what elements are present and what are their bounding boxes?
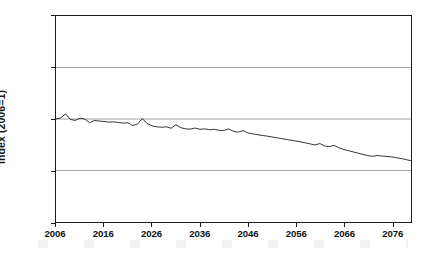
y-tick-mark [51,171,55,172]
plot-area [55,15,412,223]
chart-figure: Index (2006=1) 0.500.751.001.251.5020062… [0,0,427,254]
y-tick-mark [51,15,55,16]
x-tick-mark [103,223,104,227]
x-tick-label: 2076 [370,228,416,239]
gridlines-group [56,68,411,171]
x-tick-label: 2006 [32,228,78,239]
y-tick-mark [51,67,55,68]
x-tick-label: 2046 [225,228,271,239]
x-tick-mark [248,223,249,227]
x-tick-label: 2036 [177,228,223,239]
x-tick-mark [344,223,345,227]
y-axis-title-text: Index (2006=1) [0,90,7,164]
data-line [56,114,411,161]
series-line [56,16,411,222]
x-tick-label: 2016 [80,228,126,239]
y-tick-mark [51,119,55,120]
y-axis-title: Index (2006=1) [0,0,22,254]
scan-artifact [38,240,408,248]
x-tick-mark [393,223,394,227]
x-tick-label: 2066 [321,228,367,239]
x-tick-mark [151,223,152,227]
x-tick-mark [200,223,201,227]
x-tick-label: 2026 [128,228,174,239]
x-tick-mark [55,223,56,227]
x-tick-label: 2056 [273,228,319,239]
x-tick-mark [296,223,297,227]
